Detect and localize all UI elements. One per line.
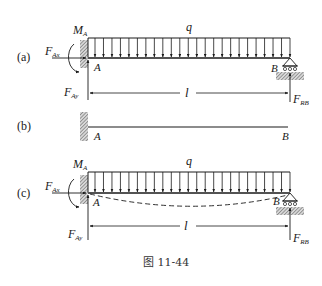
- force-rb-label-a: FRB: [292, 92, 310, 107]
- force-ay-label-c: FAy: [67, 227, 83, 242]
- point-b-label-b: B: [282, 130, 289, 142]
- distributed-load-a: [88, 38, 290, 57]
- panel-b: (b) A B: [17, 112, 289, 142]
- panel-a: (a) MA q: [17, 20, 310, 107]
- moment-label-c: MA: [72, 157, 88, 172]
- panel-c: (c) MA q FAx FAy A B FRB l: [17, 154, 310, 246]
- length-label-c: l: [184, 218, 188, 233]
- length-label-a: l: [185, 85, 189, 100]
- moment-label-a: MA: [72, 23, 88, 38]
- panel-tag-a: (a): [17, 50, 30, 64]
- beam-diagram: (a) MA q: [0, 0, 322, 286]
- panel-tag-b: (b): [17, 119, 31, 133]
- force-ay-label-a: FAy: [63, 85, 79, 100]
- deflection-curve-c: [90, 194, 288, 206]
- force-rb-label-c: FRB: [292, 231, 310, 246]
- load-label-c: q: [186, 154, 192, 168]
- panel-tag-c: (c): [17, 186, 30, 200]
- fixed-wall-b: [80, 112, 88, 141]
- load-label-a: q: [186, 20, 192, 34]
- figure-caption: 图 11-44: [143, 256, 189, 269]
- point-a-label-c: A: [92, 196, 100, 208]
- point-a-label-a: A: [93, 61, 101, 73]
- point-b-label-a: B: [271, 62, 278, 74]
- fixed-wall-c: [80, 175, 88, 204]
- force-ax-label-c: FAx: [44, 179, 61, 194]
- point-b-label-c: B: [273, 195, 280, 207]
- fixed-wall-a: [80, 40, 88, 68]
- force-ax-label-a: FAx: [44, 44, 61, 59]
- distributed-load-c: [88, 172, 290, 192]
- point-a-label-b: A: [93, 130, 101, 142]
